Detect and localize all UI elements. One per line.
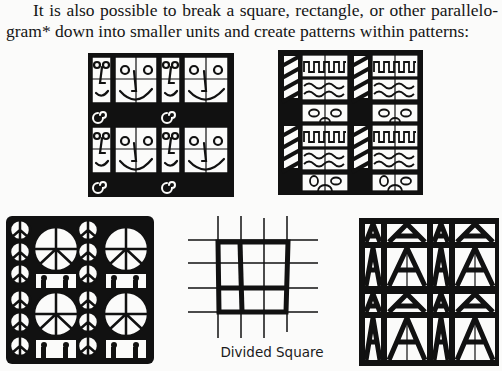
triangles-pattern-figure bbox=[359, 218, 499, 366]
divided-square-caption: Divided Square bbox=[217, 344, 327, 360]
faces-pattern-figure bbox=[88, 53, 234, 197]
paragraph-line-1: It is also possible to break a square, r… bbox=[6, 0, 498, 21]
body-paragraph: It is also possible to break a square, r… bbox=[6, 0, 498, 42]
divided-square-figure bbox=[188, 216, 318, 342]
peace-pattern-figure bbox=[6, 216, 154, 364]
paragraph-line-2: gram* down into smaller units and create… bbox=[6, 21, 498, 42]
waves-pattern-figure bbox=[278, 50, 423, 195]
